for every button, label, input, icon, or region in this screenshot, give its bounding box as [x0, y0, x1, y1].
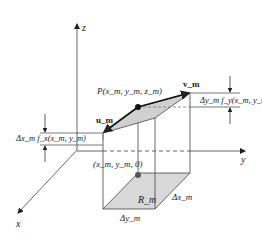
- delta-x-label: Δx_m: [172, 193, 192, 202]
- point-p-label: P(x_m, y_m, z_m): [97, 87, 162, 96]
- vector-u-label: u_m: [96, 116, 113, 125]
- tangent-plane: [103, 93, 190, 133]
- x-axis: [18, 150, 77, 213]
- base-point-label: (x_m, y_m, 0): [93, 160, 142, 169]
- point-p: [135, 104, 141, 110]
- delta-y-label: Δy_m: [120, 214, 140, 223]
- delta-x-term-label: Δx_m f_x(x_m, y_m): [16, 134, 86, 143]
- base-point: [135, 172, 141, 178]
- x-axis-label: x: [16, 219, 20, 229]
- y-axis-label: y: [241, 155, 245, 165]
- vector-v-label: v_m: [183, 80, 200, 89]
- delta-y-term-label: Δy_m f_y(x_m, y_m): [200, 96, 262, 105]
- region-label: R_m: [138, 195, 156, 205]
- z-axis-label: z: [82, 23, 86, 33]
- surface-area-diagram: [0, 0, 262, 236]
